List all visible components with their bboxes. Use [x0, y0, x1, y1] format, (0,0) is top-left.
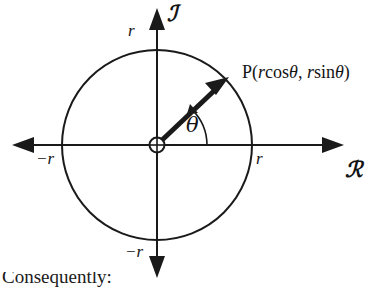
tick-label-negative-r-bottom: −r — [125, 243, 143, 260]
point-label-P: P(rcosθ, rsinθ) — [242, 63, 350, 81]
point-label-r1: r — [258, 62, 265, 82]
point-label-theta1: θ — [289, 62, 298, 82]
point-label-comma: , — [298, 62, 307, 82]
real-axis-right-arrowhead — [322, 137, 344, 153]
caption-text: Consequently: — [2, 272, 112, 288]
figure-container: r r −r −r ℐ ℛ θ P(rcosθ, rsinθ) Conseque… — [0, 0, 388, 291]
imaginary-axis-label: ℐ — [167, 2, 177, 24]
real-axis-left-arrowhead — [12, 137, 34, 153]
caption-clipped-container: Consequently: — [0, 272, 260, 291]
tick-label-r-top: r — [128, 22, 135, 39]
point-label-cos: cos — [265, 62, 289, 82]
circle-diagram-svg — [0, 0, 388, 291]
point-label-suffix: ) — [344, 62, 350, 82]
point-label-r2: r — [307, 62, 314, 82]
point-label-sin: sin — [314, 62, 335, 82]
theta-label: θ — [186, 115, 199, 136]
point-label-prefix: P( — [242, 62, 258, 82]
position-vector-arrowhead — [205, 77, 229, 95]
tick-label-r-right: r — [256, 150, 263, 167]
tick-label-negative-r-left: −r — [36, 150, 54, 167]
real-axis-label: ℛ — [345, 158, 363, 180]
imaginary-axis-top-arrowhead — [149, 8, 165, 30]
point-label-theta2: θ — [335, 62, 344, 82]
